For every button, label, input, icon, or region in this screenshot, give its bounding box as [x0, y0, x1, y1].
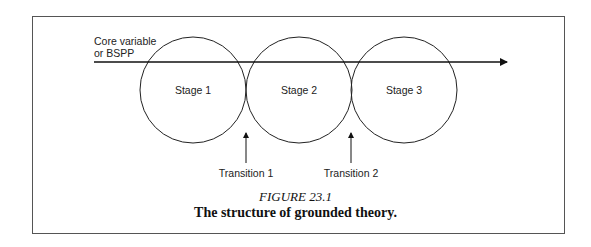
figure-number: FIGURE 23.1: [0, 189, 591, 205]
stage-1-label: Stage 1: [175, 84, 211, 96]
stage-3-label: Stage 3: [386, 84, 422, 96]
figure-title: The structure of grounded theory.: [0, 205, 591, 221]
transition-1-label: Transition 1: [219, 167, 273, 179]
core-variable-label: Core variable or BSPP: [94, 35, 156, 59]
transition-2-label: Transition 2: [324, 167, 378, 179]
stage-2-label: Stage 2: [281, 84, 317, 96]
